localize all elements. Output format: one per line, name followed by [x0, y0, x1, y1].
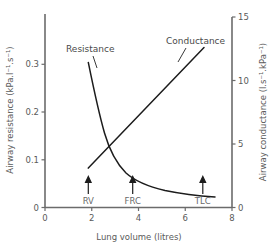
conductance-label: Conductance: [166, 36, 226, 46]
resistance-leader: [93, 56, 97, 68]
resistance-label: Resistance: [66, 44, 115, 54]
chart-figure: 0 0.1 0.2 0.3 0 5 10 15 0 2 4 6 8 Lung v…: [0, 0, 278, 252]
right-tick-label-0: 0: [238, 203, 243, 213]
resistance-curve: [88, 62, 215, 197]
chart-svg: 0 0.1 0.2 0.3 0 5 10 15 0 2 4 6 8 Lung v…: [0, 0, 278, 252]
right-tick-label-5: 5: [238, 139, 243, 149]
left-tick-label-0: 0: [34, 203, 39, 213]
marker-label-frc: FRC: [125, 196, 141, 206]
right-tick-label-15: 15: [238, 12, 249, 22]
marker-rv: RV: [83, 177, 94, 207]
x-tick-label-2: 2: [89, 213, 94, 223]
marker-label-tlc: TLC: [194, 196, 211, 206]
right-axis-title: Airway conductance (l.s⁻¹.kPa⁻¹): [258, 43, 268, 181]
x-axis-title: Lung volume (litres): [96, 232, 181, 242]
left-tick-label-0.2: 0.2: [25, 107, 39, 117]
marker-label-rv: RV: [83, 196, 94, 206]
marker-tlc: TLC: [194, 177, 211, 207]
left-axis-title: Airway resistance (kPa.l⁻¹.s⁻¹): [5, 46, 15, 173]
left-tick-label-0.3: 0.3: [25, 59, 39, 69]
x-tick-label-6: 6: [183, 213, 188, 223]
conductance-curve: [88, 48, 204, 169]
left-tick-label-0.1: 0.1: [25, 155, 39, 165]
x-tick-label-8: 8: [229, 213, 234, 223]
right-tick-label-10: 10: [238, 76, 249, 86]
x-tick-label-4: 4: [136, 213, 141, 223]
x-tick-label-0: 0: [42, 213, 47, 223]
conductance-leader: [178, 48, 186, 62]
